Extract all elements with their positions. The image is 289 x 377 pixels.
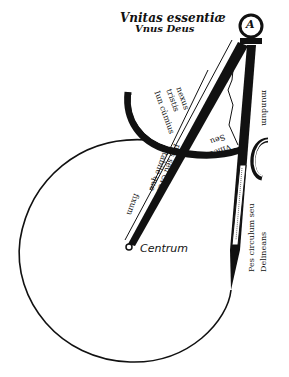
head-letter: A	[246, 19, 255, 30]
circle-arc	[19, 140, 231, 362]
emblem-figure: Vnitas essentiæ Vnus Deus A Iun cùmius t…	[0, 0, 289, 377]
moving-leg-label-2: Delineans	[260, 232, 268, 272]
title-line-2: Vnus Deus	[135, 24, 194, 34]
right-leg-upper-label: mundum	[260, 90, 268, 126]
compass-diagram	[0, 0, 289, 377]
center-point-icon	[126, 244, 132, 250]
center-label: Centrum	[140, 243, 188, 254]
clamp-icon	[253, 140, 268, 178]
moving-leg-label-1: Pes circulum seu	[248, 203, 256, 272]
